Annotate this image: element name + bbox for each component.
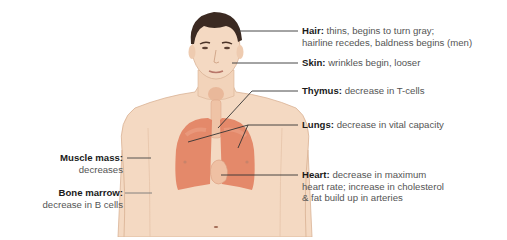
heart	[210, 160, 227, 184]
label-bone-text: decrease in B cells	[42, 199, 123, 210]
label-skin-title: Skin:	[302, 57, 325, 68]
label-skin-text: wrinkles begin, looser	[328, 57, 420, 68]
label-muscle-mass: Muscle mass: decreases	[60, 152, 123, 175]
label-muscle-title: Muscle mass:	[60, 152, 123, 163]
label-bone-title: Bone marrow:	[58, 187, 123, 198]
label-lungs: Lungs: decrease in vital capacity	[302, 119, 444, 131]
trachea	[211, 100, 221, 138]
label-skin: Skin: wrinkles begin, looser	[302, 57, 420, 69]
label-heart-text-3: & fat build up in arteries	[302, 192, 403, 203]
label-hair: Hair: thins, begins to turn gray; hairli…	[302, 25, 472, 48]
label-heart: Heart: decrease in maximum heart rate; i…	[302, 169, 444, 204]
label-hair-text-2: hairline recedes, baldness begins (men)	[302, 37, 472, 48]
label-thymus-title: Thymus:	[302, 85, 342, 96]
label-hair-text-1: thins, begins to turn gray;	[327, 25, 435, 36]
label-heart-text-2: heart rate; increase in cholesterol	[302, 181, 444, 192]
label-bone-marrow: Bone marrow: decrease in B cells	[42, 187, 123, 210]
label-muscle-text: decreases	[79, 164, 123, 175]
label-thymus: Thymus: decrease in T-cells	[302, 85, 424, 97]
label-hair-title: Hair:	[302, 25, 324, 36]
label-heart-text-1: decrease in maximum	[332, 169, 426, 180]
label-lungs-title: Lungs:	[302, 119, 334, 130]
label-heart-title: Heart:	[302, 169, 330, 180]
label-thymus-text: decrease in T-cells	[345, 85, 425, 96]
label-lungs-text: decrease in vital capacity	[337, 119, 444, 130]
